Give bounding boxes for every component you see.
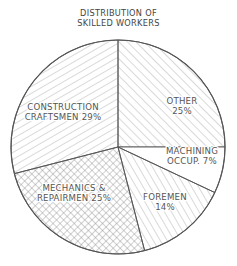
slice-label: OCCUP. 7%	[167, 156, 217, 166]
slice-label: FOREMEN	[143, 192, 187, 202]
slice-label: CRAFTSMEN 29%	[25, 112, 102, 122]
slice-label: REPAIRMEN 25%	[37, 193, 111, 203]
slice-label: 14%	[155, 202, 175, 212]
slice-label: MECHANICS &	[42, 183, 105, 193]
slice-label: 25%	[172, 106, 192, 116]
slice-label: MACHINING	[166, 146, 218, 156]
slice-label: OTHER	[167, 96, 198, 106]
pie-slice-other	[118, 40, 225, 147]
pie-chart: DISTRIBUTION OF SKILLED WORKERS OTHER25%…	[0, 0, 237, 266]
slice-label: CONSTRUCTION	[27, 102, 99, 112]
pie-svg: OTHER25%MACHININGOCCUP. 7%FOREMEN14%MECH…	[0, 0, 237, 266]
